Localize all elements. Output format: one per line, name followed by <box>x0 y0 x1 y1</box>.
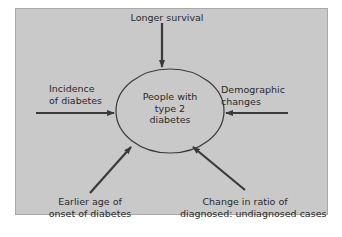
factor-incidence: Incidence of diabetes <box>49 83 102 106</box>
factor-longer-survival: Longer survival <box>122 12 212 24</box>
factor-ratio-change: Change in ratio of diagnosed: undiagnose… <box>180 196 310 219</box>
factor-demographic: Demographic changes <box>221 84 285 107</box>
factor-earlier-onset: Earlier age of onset of diabetes <box>45 196 135 219</box>
arrow-bottom-right <box>193 147 245 190</box>
center-label: People with type 2 diabetes <box>130 91 210 126</box>
arrow-bottom-left <box>90 147 131 193</box>
